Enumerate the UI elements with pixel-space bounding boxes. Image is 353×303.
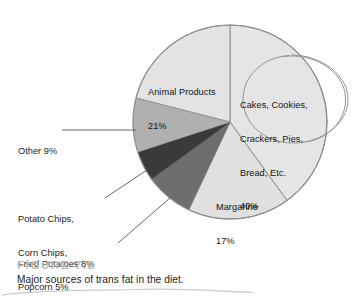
figure-number: FIGURE 7.2 [17,258,337,272]
slice-label-margarine-value: 17% [216,236,258,247]
slice-label-cakes-line3: Bread, Etc. [240,168,308,179]
slice-label-margarine-line1: Margarine [216,202,258,213]
slice-label-other: Other 9% [18,124,57,180]
slice-label-cakes-line1: Cakes, Cookies, [240,100,308,111]
figure-caption-block: FIGURE 7.2 Major sources of trans fat in… [17,258,337,286]
slice-label-margarine: Margarine 17% [216,180,258,270]
leader-line-fried-potatoes [118,198,170,243]
slice-label-cakes-line2: Crackers, Pies, [240,134,308,145]
slice-label-animal-products-value: 21% [148,121,216,132]
slice-label-other-line1: Other 9% [18,146,57,157]
slice-label-animal-products-line1: Animal Products [148,87,216,98]
figure-caption-text: Major sources of trans fat in the diet. [17,273,337,286]
leader-line-potato-chips [105,170,147,198]
figure-container: Cakes, Cookies, Crackers, Pies, Bread, E… [0,0,353,303]
slice-label-potato-chips-line1: Potato Chips, [18,214,74,225]
slice-label-animal-products: Animal Products 21% [148,65,216,155]
